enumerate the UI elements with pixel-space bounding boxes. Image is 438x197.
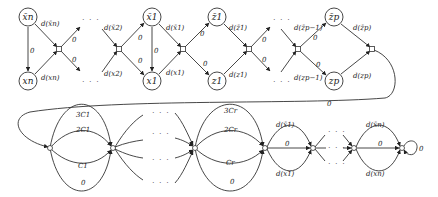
- junction-node: [247, 47, 252, 52]
- edge-label: 0: [138, 34, 143, 42]
- edge-label: d(x1): [276, 170, 295, 178]
- edge-label: 0: [262, 36, 267, 44]
- edge-label: d(z̄1): [229, 24, 247, 32]
- edge-label: 0: [81, 179, 86, 187]
- edge-label: 0: [203, 60, 208, 68]
- edge-label: 0: [200, 30, 205, 38]
- edge-label: 0: [327, 100, 332, 108]
- clause-node: [48, 146, 53, 151]
- ellipsis: · · ·: [152, 129, 170, 138]
- vertex-label: z̄1: [211, 12, 222, 22]
- ellipsis: · · ·: [152, 155, 170, 164]
- edge-label: d(xn): [41, 74, 60, 82]
- edge-label: d(z̄p−1): [294, 24, 323, 32]
- clause-gadget-zp: z̄p zp d(z̄p) d(zp): [325, 8, 375, 90]
- edge-label: 2C1: [75, 126, 90, 134]
- ellipsis: · · ·: [82, 77, 100, 86]
- ellipsis: · · ·: [328, 127, 346, 136]
- edge-label: d(x2): [104, 70, 123, 78]
- ellipsis: · · ·: [152, 178, 170, 187]
- edge-label: d(x̄1): [166, 24, 185, 32]
- ellipsis: · · ·: [82, 15, 100, 24]
- vertex-label: zp: [328, 76, 340, 86]
- self-loop-edge: [404, 141, 417, 155]
- ellipsis: · · ·: [273, 77, 291, 86]
- vertex-label: xn: [23, 76, 34, 86]
- edge-label: Cr: [226, 159, 235, 167]
- edge-label: 3C1: [76, 111, 90, 119]
- clause-gadget-z1: z̄1 z1 0 0 d(z̄1) d(z1) 0 0: [185, 8, 270, 90]
- variable-node: [352, 146, 357, 151]
- variable-gadget-1: x̄1 x1 0 d(x̄1) d(x1): [143, 8, 186, 90]
- variable-bundle-xn: d(x̄n) 0 d(xn) 0: [352, 121, 425, 178]
- junction-p-1: d(z̄p−1) d(zp−1) 0 0: [281, 23, 326, 82]
- edge-label: C1: [78, 162, 88, 170]
- vertex-label: z̄p: [328, 12, 340, 22]
- edge-label: 0: [72, 56, 77, 64]
- edge-label: 0: [262, 56, 267, 64]
- edge-label: d(zp): [353, 72, 371, 80]
- edge-label: d(z̄p): [353, 24, 371, 32]
- edge-label: d(x̄n): [366, 121, 385, 129]
- junction-node: [296, 47, 301, 52]
- edge-label: 0: [419, 145, 424, 153]
- edge-label: d(zp−1): [294, 74, 323, 82]
- clause-node: [193, 146, 198, 151]
- clause-bundle-cr: 3Cr 2Cr Cr 0: [193, 104, 268, 191]
- junction-2: d(x̄2) d(x2) 0 0: [102, 23, 144, 78]
- sink-node: [400, 146, 405, 151]
- edge-label: 0: [378, 140, 383, 148]
- edge-label: 0: [316, 61, 321, 69]
- variable-gadget-n: x̄n xn d(x̄n) d(xn) 0 0 0: [19, 8, 80, 90]
- vertex-label: x̄1: [147, 12, 158, 22]
- edge-label: 0: [285, 140, 290, 148]
- edge-label: 3Cr: [224, 107, 238, 115]
- edge-label: 0: [138, 57, 143, 65]
- variable-node: [311, 146, 316, 151]
- edge-label: 0: [313, 34, 318, 42]
- edge-label: d(x̄1): [276, 121, 295, 129]
- edge-label: d(x̄n): [41, 20, 60, 28]
- junction-node: [181, 47, 186, 52]
- clause-node: [263, 146, 268, 151]
- clause-bundle-c1: 3C1 2C1 C1 0: [48, 104, 116, 191]
- vertex-label: x̄n: [23, 12, 34, 22]
- junction-node: [57, 47, 62, 52]
- edge-label: 0: [154, 47, 159, 55]
- edge-label: 0: [30, 47, 35, 55]
- junction-node: [370, 47, 375, 52]
- edge-label: d(z1): [229, 71, 247, 79]
- reduction-graph-diagram: x̄n xn d(x̄n) d(xn) 0 0 0 · · · · · · d(…: [0, 0, 438, 197]
- edge-label: 0: [72, 36, 77, 44]
- ellipsis: · · ·: [273, 15, 291, 24]
- ellipsis: · · ·: [328, 143, 346, 152]
- vertex-label: x1: [147, 76, 158, 86]
- edge-label: 0: [230, 178, 235, 186]
- variable-bundle-x1: d(x̄1) 0 d(x1): [267, 121, 316, 178]
- vertex-label: z1: [211, 76, 222, 86]
- edge-label: d(x1): [166, 69, 185, 77]
- ellipsis: · · ·: [152, 108, 170, 117]
- clause-node: [111, 146, 116, 151]
- edge-label: d(x̄2): [104, 24, 123, 32]
- edge-label: 2Cr: [223, 126, 238, 134]
- junction-node: [117, 47, 122, 52]
- edge-label: d(xn): [366, 170, 385, 178]
